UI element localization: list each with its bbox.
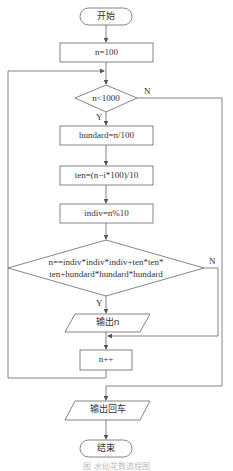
check-line1-label: n==indiv*indiv*indiv+ten*ten*: [20, 258, 192, 267]
loop-no-label: N: [144, 86, 151, 96]
check-line2-label: ten+hundard*hundard*hundard: [20, 270, 192, 279]
indiv-step-label: indiv=n%10: [60, 209, 153, 218]
increment-label: n++: [80, 355, 132, 364]
check-decision: [8, 240, 204, 296]
end-label: 结束: [80, 444, 132, 453]
check-yes-label: Y: [96, 298, 103, 308]
output-n-label: 输出n: [65, 318, 150, 327]
loop-condition-label: n<1000: [75, 94, 137, 103]
figure-caption: 图 水仙花数流程图: [0, 460, 233, 471]
hundred-step-label: hundard=n/100: [60, 131, 153, 140]
ten-step-label: ten=(n−i*100)/10: [60, 171, 153, 180]
loop-yes-label: Y: [96, 112, 103, 122]
start-label: 开始: [80, 12, 132, 21]
check-no-label: N: [209, 256, 216, 266]
init-label: n=100: [60, 48, 153, 57]
output-newline-label: 输出回车: [65, 405, 150, 414]
